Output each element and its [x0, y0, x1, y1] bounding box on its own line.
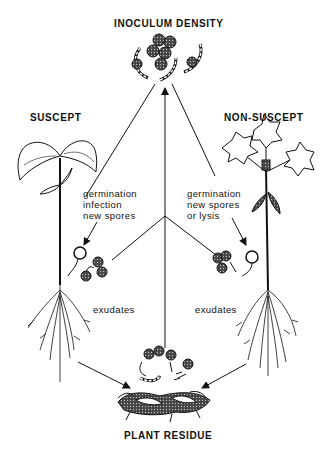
- suscept-exudates-label: exudates: [93, 304, 135, 315]
- germinating-spores-left: [68, 247, 107, 281]
- diagram-canvas: [0, 0, 328, 449]
- suscept-label: SUSCEPT: [30, 112, 81, 123]
- plant-residue-label: PLANT RESIDUE: [124, 430, 212, 441]
- inoculum-density-label: INOCULUM DENSITY: [114, 18, 224, 29]
- residue-debris-icon: [118, 346, 210, 422]
- non-suscept-roots: [236, 288, 298, 376]
- flow-lines: [78, 84, 246, 388]
- non-suscept-exudates-label: exudates: [195, 304, 237, 315]
- suscept-roots: [28, 285, 90, 382]
- spore-cluster-icon: [132, 34, 201, 80]
- non-suscept-label: NON-SUSCEPT: [224, 112, 303, 123]
- suscept-process-note: germination infection new spores: [83, 188, 137, 221]
- germinating-spores-right: [213, 251, 258, 276]
- non-suscept-process-note: germination new spores or lysis: [187, 188, 241, 221]
